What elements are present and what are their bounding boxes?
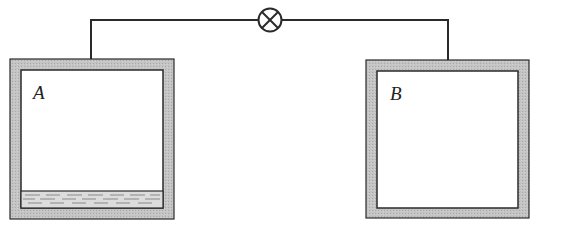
container-a-label: A bbox=[31, 82, 45, 103]
container-a: A bbox=[10, 59, 174, 219]
container-b: B bbox=[366, 60, 529, 218]
liquid bbox=[21, 191, 163, 208]
container-b-label: B bbox=[390, 83, 402, 104]
diagram-canvas: A B bbox=[0, 0, 565, 230]
valve-icon bbox=[259, 9, 282, 32]
